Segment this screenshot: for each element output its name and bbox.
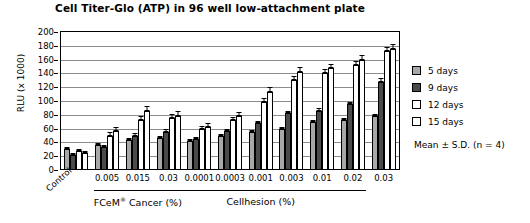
- bar: [359, 60, 365, 170]
- error-bar: [226, 129, 227, 131]
- bar-slot: [390, 32, 396, 170]
- bar-slot: [144, 32, 150, 170]
- y-tick-mark: [54, 73, 58, 74]
- error-bar: [288, 111, 289, 114]
- legend-item[interactable]: 15 days: [412, 113, 464, 130]
- error-bar: [355, 61, 356, 65]
- error-bar: [128, 138, 129, 140]
- error-bar: [325, 69, 326, 73]
- x-tick-label: 0.03: [374, 174, 393, 183]
- error-bar: [67, 147, 68, 149]
- x-tick-label: 0.0003: [215, 174, 245, 183]
- x-tick-label: 0.01: [313, 174, 332, 183]
- bar: [144, 111, 150, 170]
- y-tick-mark: [54, 142, 58, 143]
- error-bar: [73, 153, 74, 155]
- error-bar: [238, 112, 239, 116]
- bar-slot: [113, 32, 119, 170]
- y-tick-label: 100: [38, 97, 54, 106]
- bar: [175, 116, 181, 170]
- bar-slot: [359, 32, 365, 170]
- bar-group: [307, 32, 338, 170]
- error-bar: [263, 98, 264, 102]
- error-bar: [208, 123, 209, 126]
- bar-group: [61, 32, 92, 170]
- bar-slot: [267, 32, 273, 170]
- y-tick-label: 80: [43, 111, 54, 120]
- bar: [113, 131, 119, 170]
- legend-swatch: [412, 117, 421, 126]
- x-group-label: FCeM® Cancer (%): [94, 196, 182, 208]
- bar-slot: [236, 32, 242, 170]
- y-tick-mark: [54, 129, 58, 130]
- x-tick-label: 0.0001: [184, 174, 214, 183]
- legend-label: 12 days: [428, 100, 464, 110]
- bar-group: [338, 32, 369, 170]
- error-bar: [269, 87, 270, 92]
- legend-swatch: [412, 100, 421, 109]
- error-bar: [349, 102, 350, 105]
- legend-item[interactable]: 9 days: [412, 79, 464, 96]
- error-bar: [251, 130, 252, 132]
- bar-group: [184, 32, 215, 170]
- legend-label: 5 days: [428, 66, 458, 76]
- error-bar: [140, 116, 141, 120]
- error-bar: [331, 64, 332, 68]
- legend-item[interactable]: 12 days: [412, 96, 464, 113]
- bar-group: [276, 32, 307, 170]
- y-tick-label: 60: [43, 124, 54, 133]
- bar: [205, 127, 211, 170]
- error-bar: [171, 114, 172, 118]
- bar-slot: [328, 32, 334, 170]
- error-bar: [386, 47, 387, 52]
- y-tick-mark: [54, 170, 58, 171]
- legend-swatch: [412, 66, 421, 75]
- error-bar: [116, 127, 117, 131]
- x-tick-label: 0.003: [279, 174, 303, 183]
- y-tick-label: 180: [38, 42, 54, 51]
- error-bar: [282, 127, 283, 129]
- bar-group: [245, 32, 276, 170]
- error-bar: [104, 145, 105, 147]
- bar: [328, 68, 334, 170]
- error-bar: [294, 76, 295, 80]
- bar-group: [92, 32, 123, 170]
- bar-group: [215, 32, 246, 170]
- x-tick-label: 0.03: [159, 174, 178, 183]
- error-bar: [361, 55, 362, 60]
- y-tick-label: 40: [43, 138, 54, 147]
- y-tick-mark: [54, 156, 58, 157]
- error-bar: [257, 121, 258, 123]
- y-tick-mark: [54, 87, 58, 88]
- legend-note: Mean ± S.D. (n = 4): [414, 140, 505, 150]
- bar: [267, 92, 273, 170]
- chart-figure: Cell Titer-Glo (ATP) in 96 well low-atta…: [0, 0, 530, 223]
- error-bar: [300, 67, 301, 72]
- bar-slot: [297, 32, 303, 170]
- error-bar: [110, 132, 111, 135]
- y-tick-mark: [54, 46, 58, 47]
- x-group-rule: [155, 190, 366, 191]
- bar: [390, 49, 396, 170]
- x-tick-label: 0.005: [95, 174, 119, 183]
- x-tick-label: 0.001: [249, 174, 273, 183]
- error-bar: [220, 134, 221, 136]
- error-bar: [146, 106, 147, 112]
- bar: [236, 116, 242, 170]
- error-bar: [165, 129, 166, 132]
- error-bar: [232, 117, 233, 120]
- legend: 5 days9 days12 days15 days: [412, 62, 464, 130]
- error-bar: [190, 139, 191, 141]
- error-bar: [343, 118, 344, 120]
- bar-group: [122, 32, 153, 170]
- bar: [297, 72, 303, 170]
- bars-layer: [61, 32, 399, 170]
- y-tick-mark: [54, 60, 58, 61]
- error-bar: [196, 137, 197, 139]
- legend-item[interactable]: 5 days: [412, 62, 464, 79]
- legend-label: 15 days: [428, 117, 464, 127]
- y-tick-label: 120: [38, 83, 54, 92]
- bar-slot: [175, 32, 181, 170]
- y-tick-mark: [54, 101, 58, 102]
- error-bar: [159, 136, 160, 138]
